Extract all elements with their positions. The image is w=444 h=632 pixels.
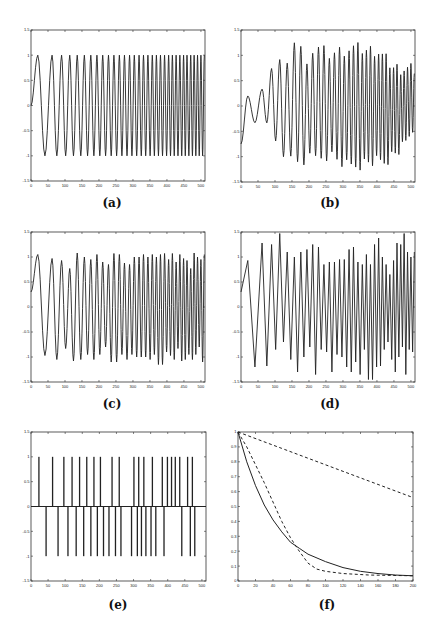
svg-text:0.1: 0.1 (231, 564, 237, 569)
svg-text:0.5: 0.5 (231, 504, 237, 509)
svg-text:0.6: 0.6 (231, 489, 237, 494)
svg-text:160: 160 (375, 583, 382, 588)
svg-text:80: 80 (306, 583, 311, 588)
svg-text:20: 20 (253, 583, 258, 588)
caption-f: (f) (307, 598, 347, 612)
svg-text:40: 40 (271, 583, 276, 588)
svg-text:120: 120 (340, 583, 347, 588)
svg-text:0.9: 0.9 (231, 444, 237, 449)
svg-text:1: 1 (234, 429, 237, 434)
svg-text:0.2: 0.2 (231, 549, 237, 554)
axes-f: 02040608010012014016018020000.10.20.30.4… (231, 429, 417, 588)
svg-text:200: 200 (410, 583, 417, 588)
svg-text:140: 140 (357, 583, 364, 588)
svg-text:60: 60 (288, 583, 293, 588)
svg-text:100: 100 (322, 583, 329, 588)
svg-text:0.8: 0.8 (231, 459, 237, 464)
svg-text:0: 0 (237, 583, 240, 588)
series-f-dashed-upper (238, 432, 413, 498)
svg-text:0.7: 0.7 (231, 474, 237, 479)
series-f-solid (238, 432, 413, 576)
svg-text:0.3: 0.3 (231, 534, 237, 539)
chart-panel-f: 02040608010012014016018020000.10.20.30.4… (0, 0, 444, 632)
svg-text:180: 180 (392, 583, 399, 588)
chart-f-plot: 02040608010012014016018020000.10.20.30.4… (0, 0, 444, 632)
svg-text:0.4: 0.4 (231, 519, 237, 524)
